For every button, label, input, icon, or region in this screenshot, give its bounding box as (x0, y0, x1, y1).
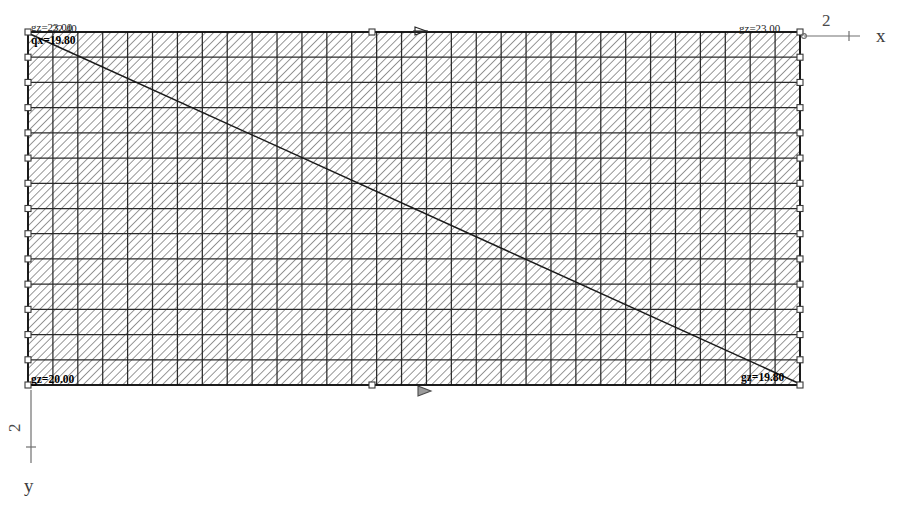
node-marker (25, 130, 31, 136)
node-marker (25, 180, 31, 186)
node-marker (797, 180, 803, 186)
node-marker (25, 357, 31, 363)
node-marker (797, 231, 803, 237)
node-marker (25, 281, 31, 287)
node-marker (797, 155, 803, 161)
node-marker (25, 79, 31, 85)
node-marker (797, 79, 803, 85)
label-bottom-right: gz=19.80 (741, 371, 785, 384)
node-marker (797, 382, 803, 388)
x-axis-group: 2 x (802, 11, 886, 46)
node-marker (369, 382, 375, 388)
node-marker (797, 306, 803, 312)
node-marker (797, 206, 803, 212)
drawing-canvas: 2 x 2 y gz=23.00 22.40 qx=19.80 gz=23.00… (0, 0, 904, 512)
node-marker (25, 231, 31, 237)
node-marker (797, 281, 803, 287)
node-marker (25, 54, 31, 60)
node-marker (25, 155, 31, 161)
node-marker (797, 357, 803, 363)
node-marker (369, 29, 375, 35)
node-marker (25, 256, 31, 262)
load-arrow-bottom-icon (418, 386, 431, 396)
node-marker (797, 105, 803, 111)
label-bottom-left: gz=20.00 (31, 373, 75, 386)
x-axis-label: x (876, 25, 886, 46)
node-marker (797, 54, 803, 60)
label-top-right: gz=23.00 (739, 22, 781, 34)
node-marker (797, 130, 803, 136)
y-axis-tick-label: 2 (5, 424, 24, 433)
label-top-left-lower: qx=19.80 (31, 34, 76, 47)
node-marker (797, 256, 803, 262)
mesh-plot: 2 x 2 y gz=23.00 22.40 qx=19.80 gz=23.00… (0, 0, 904, 512)
node-marker (25, 105, 31, 111)
y-axis-label: y (24, 475, 34, 496)
label-top-left-overlap: 22.40 (52, 22, 77, 34)
node-marker (25, 206, 31, 212)
y-axis-group: 2 y (5, 390, 36, 496)
x-axis-tick-label: 2 (822, 11, 831, 30)
node-marker (797, 332, 803, 338)
node-marker (25, 332, 31, 338)
node-marker (25, 306, 31, 312)
